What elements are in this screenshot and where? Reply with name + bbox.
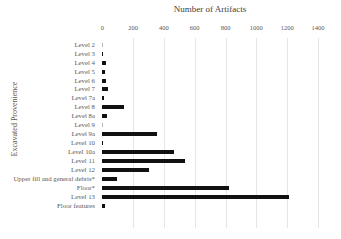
category-label: Level 8 [74, 104, 95, 111]
y-axis-label: Excavated Provenience [10, 82, 19, 157]
category-label: Level 10 [71, 140, 95, 147]
gridline [256, 38, 257, 228]
bar [102, 195, 288, 199]
x-tick-label: 600 [190, 24, 200, 31]
x-tick-label: 400 [159, 24, 169, 31]
x-tick-label: 1200 [281, 24, 294, 31]
category-label: Floor* [77, 184, 95, 191]
bar [102, 204, 105, 208]
category-label: Upper fill and general debris* [13, 176, 95, 183]
category-label: Level 9a [71, 131, 95, 138]
bar [102, 150, 174, 154]
category-label: Level 13 [71, 193, 95, 200]
bar [102, 177, 116, 181]
bar [102, 79, 105, 83]
x-tick-label: 1000 [250, 24, 263, 31]
bar [102, 70, 105, 74]
category-label: Floor features [57, 202, 95, 209]
category-label: Level 6 [74, 77, 95, 84]
bar [102, 52, 103, 56]
category-label: Level 9 [74, 122, 95, 129]
category-label: Level 3 [74, 50, 95, 57]
gridline [287, 38, 288, 228]
bar [102, 168, 149, 172]
gridline [164, 38, 165, 228]
category-label: Level 11 [71, 158, 95, 165]
bar [102, 186, 229, 190]
bar [102, 159, 185, 163]
x-tick-label: 0 [101, 24, 104, 31]
x-tick-label: 800 [221, 24, 231, 31]
category-label: Level 8a [71, 113, 95, 120]
bar [102, 132, 157, 136]
bar [102, 43, 103, 47]
bar [102, 141, 103, 145]
x-tick-label: 1400 [312, 24, 325, 31]
gridline [226, 38, 227, 228]
category-label: Level 7 [74, 86, 95, 93]
bar [102, 105, 124, 109]
chart-title: Number of Artifacts [102, 4, 318, 14]
gridline [195, 38, 196, 228]
bar [102, 61, 105, 65]
gridline [318, 38, 319, 228]
bar [102, 114, 107, 118]
bar [102, 123, 103, 127]
category-label: Level 5 [74, 68, 95, 75]
bar [102, 96, 103, 100]
category-label: Level 10a [68, 149, 95, 156]
category-label: Level 12 [71, 167, 95, 174]
category-label: Level 7a [71, 95, 95, 102]
category-label: Level 4 [74, 59, 95, 66]
category-label: Level 2 [74, 41, 95, 48]
x-tick-label: 200 [128, 24, 138, 31]
bar [102, 87, 108, 91]
